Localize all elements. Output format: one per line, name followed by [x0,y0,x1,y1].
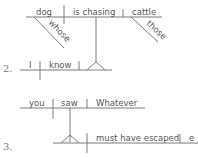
diagram-2: 2. I know [3,60,112,80]
verb-word: is chasing [73,7,115,17]
object-word: cattle [132,7,156,17]
subject-word-2: I [29,60,32,70]
sentence-diagrams: dog is chasing cattle whose those 2. I k… [0,0,198,157]
diagram-1: dog is chasing cattle whose those [26,5,169,62]
clause-verb-word: must have escaped [96,133,179,143]
modifier-those: those [145,18,169,41]
modifier-whose: whose [47,17,73,44]
clause-object-partial: e [189,133,194,143]
object-word-3: Whatever [96,98,138,108]
diagram-number-3: 3. [3,141,13,152]
subject-word: dog [36,7,52,17]
diagram-number-2: 2. [3,63,13,74]
diagram-3: you saw Whatever 3. must have escaped e [3,98,198,153]
verb-word-2: know [49,60,72,70]
verb-word-3: saw [61,98,78,108]
clause-pedestal-2 [87,62,105,70]
subject-word-3: you [29,98,45,108]
